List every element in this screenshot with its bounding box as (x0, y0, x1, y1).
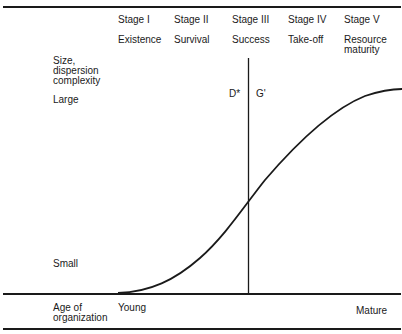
chart-plot (0, 0, 402, 334)
x-axis-label-line2: organization (53, 312, 107, 323)
x-high-label: Mature (356, 305, 387, 316)
x-low-label: Young (118, 302, 146, 313)
growth-curve (118, 89, 402, 293)
x-axis-line (3, 293, 401, 295)
bottom-rule (3, 328, 401, 330)
